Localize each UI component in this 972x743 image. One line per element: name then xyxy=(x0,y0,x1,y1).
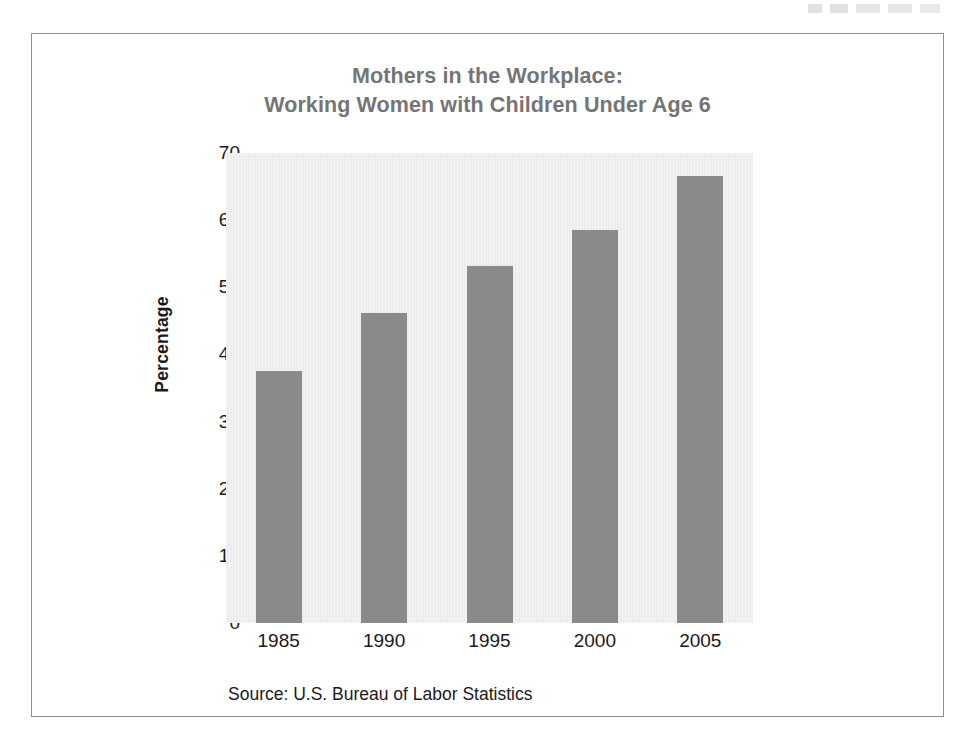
bar-1995 xyxy=(467,266,513,623)
x-tick-label-1995: 1995 xyxy=(437,630,542,652)
chart-title-line-1: Mothers in the Workplace: xyxy=(32,62,943,91)
source-note: Source: U.S. Bureau of Labor Statistics xyxy=(228,684,532,705)
bar-2000 xyxy=(572,230,618,623)
x-tick-label-1990: 1990 xyxy=(331,630,436,652)
chart-title-line-2: Working Women with Children Under Age 6 xyxy=(32,91,943,120)
y-axis-title: Percentage xyxy=(152,255,173,435)
chart-figure-frame: Mothers in the Workplace: Working Women … xyxy=(31,33,944,717)
x-tick-label-1985: 1985 xyxy=(226,630,331,652)
chart-title: Mothers in the Workplace: Working Women … xyxy=(32,62,943,120)
bar-1985 xyxy=(256,371,302,623)
x-axis-tick-labels: 19851990199520002005 xyxy=(226,630,753,656)
x-tick-label-2005: 2005 xyxy=(648,630,753,652)
plot-area xyxy=(226,153,753,623)
bars-layer xyxy=(226,153,753,623)
bar-1990 xyxy=(361,313,407,623)
bar-2005 xyxy=(677,176,723,623)
x-tick-label-2000: 2000 xyxy=(542,630,647,652)
scan-artifact xyxy=(808,4,948,13)
